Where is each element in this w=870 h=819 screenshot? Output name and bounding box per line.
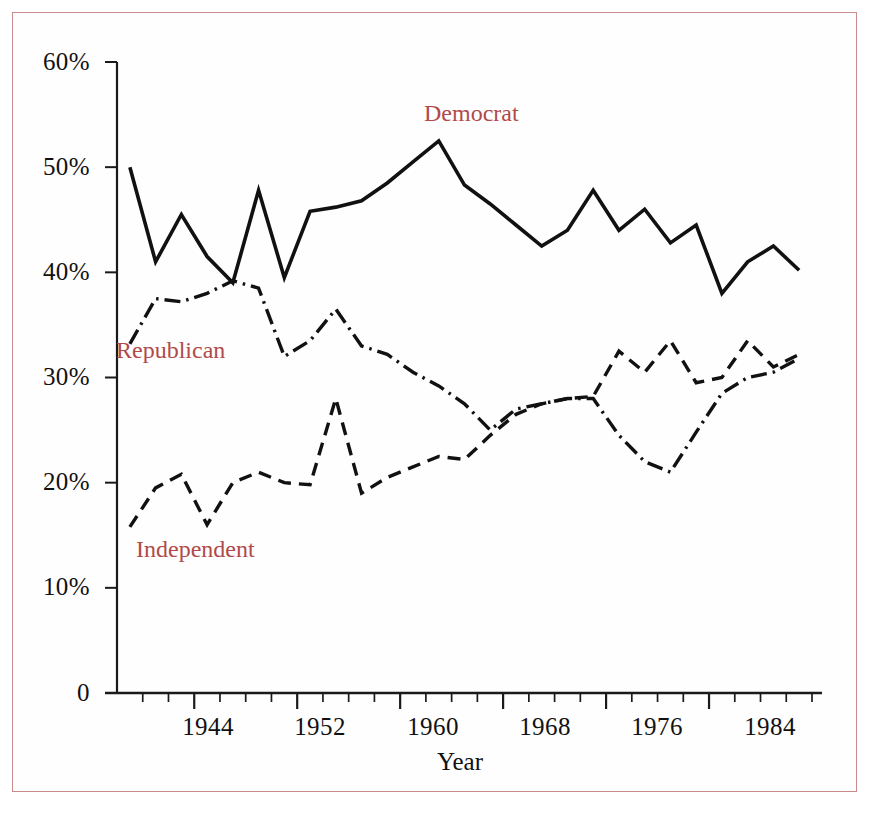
x-axis-title: Year <box>400 748 520 776</box>
y-tick-label-30: 30% <box>24 363 90 391</box>
series-label-democrat: Democrat <box>424 100 519 127</box>
axes-group <box>105 62 822 709</box>
y-tick-label-10: 10% <box>24 573 90 601</box>
y-tick-label-60: 60% <box>24 48 90 76</box>
series-line-democrat <box>130 141 799 293</box>
series-line-independent <box>130 341 799 527</box>
series-line-republican <box>130 281 799 472</box>
y-tick-label-0: 0 <box>24 679 90 707</box>
x-tick-label-1944: 1944 <box>164 713 252 741</box>
y-tick-label-40: 40% <box>24 258 90 286</box>
x-tick-label-1952: 1952 <box>276 713 364 741</box>
y-tick-label-20: 20% <box>24 468 90 496</box>
figure-page: 60% 50% 40% 30% 20% 10% 0 1944 1952 1960… <box>0 0 870 819</box>
series-group <box>130 141 799 527</box>
x-tick-label-1976: 1976 <box>613 713 701 741</box>
x-tick-label-1984: 1984 <box>726 713 814 741</box>
y-tick-label-50: 50% <box>24 153 90 181</box>
series-label-independent: Independent <box>136 536 255 563</box>
x-tick-label-1960: 1960 <box>389 713 477 741</box>
figure-caption <box>150 803 710 819</box>
series-label-republican: Republican <box>116 337 225 364</box>
x-tick-label-1968: 1968 <box>501 713 589 741</box>
